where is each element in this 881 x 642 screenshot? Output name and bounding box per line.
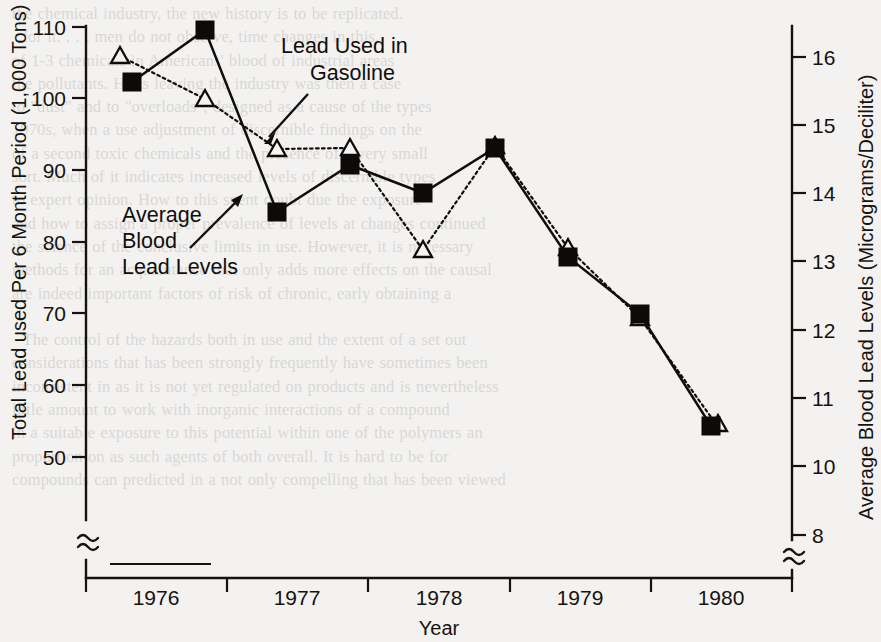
data-point-square: [123, 73, 141, 91]
annotation-blood-line2: Blood: [122, 229, 177, 253]
x-tick-label-1978: 1978: [416, 586, 463, 609]
annotation-lead-gasoline: Lead Used in Gasoline: [264, 34, 408, 144]
data-point-square: [341, 156, 359, 174]
data-point-square: [559, 248, 577, 266]
left-tick-label-100: 100: [31, 87, 66, 110]
right-axis-break-icon-2: [784, 558, 804, 564]
right-axis-break-icon: [784, 549, 804, 555]
left-tick-label-50: 50: [43, 446, 66, 469]
right-tick-label-14: 14: [812, 182, 836, 205]
annotation-gasoline-arrow: [269, 94, 308, 137]
x-tick-label-1976: 1976: [133, 586, 180, 609]
x-axis-title: Year: [419, 617, 460, 639]
annotation-gasoline-line2: Gasoline: [310, 61, 395, 85]
left-tick-label-70: 70: [43, 302, 66, 325]
left-axis-break-icon: [78, 535, 98, 541]
right-tick-label-15: 15: [812, 114, 835, 137]
right-tick-label-11: 11: [812, 387, 834, 410]
data-point-square: [631, 305, 649, 323]
left-tick-label-90: 90: [43, 159, 66, 182]
right-tick-label-8: 8: [812, 524, 824, 547]
data-point-triangle: [111, 47, 129, 63]
right-axis: 16 15 14 13 12 11 10 8 Average Blood Lea…: [784, 26, 877, 578]
series-blood-lead-line: [120, 56, 716, 424]
left-tick-label-80: 80: [43, 231, 66, 254]
data-point-triangle: [196, 90, 214, 106]
left-axis-title: Total Lead used Per 6 Month Period (1,00…: [8, 5, 30, 440]
data-point-square: [196, 21, 214, 39]
chart-svg: 110 100 90 80 70 60 50 Total Lead used P…: [0, 0, 881, 642]
right-tick-label-16: 16: [812, 46, 835, 69]
x-tick-label-1977: 1977: [274, 586, 321, 609]
annotation-gasoline-line1: Lead Used in: [281, 34, 408, 58]
x-tick-label-1979: 1979: [557, 586, 604, 609]
series-lead-gasoline-line: [132, 30, 711, 426]
left-tick-label-60: 60: [43, 374, 66, 397]
data-point-square: [268, 203, 286, 221]
bottom-axis: 1976 1977 1978 1979 1980 Year: [86, 564, 792, 639]
data-point-square: [414, 184, 432, 202]
right-tick-label-10: 10: [812, 455, 835, 478]
annotation-blood-line1: Average: [122, 203, 202, 227]
left-tick-label-110: 110: [33, 16, 66, 39]
annotation-blood-lead: Average Blood Lead Levels: [122, 194, 243, 279]
chart-figure: 110 100 90 80 70 60 50 Total Lead used P…: [0, 0, 881, 642]
left-axis-break-icon-2: [78, 544, 98, 550]
right-axis-title: Average Blood Lead Levels (Micrograms/De…: [855, 75, 877, 520]
right-tick-label-13: 13: [812, 250, 835, 273]
annotation-blood-line3: Lead Levels: [122, 255, 238, 279]
x-tick-label-1980: 1980: [698, 586, 745, 609]
series-blood-lead: [111, 47, 727, 431]
data-point-triangle: [341, 139, 359, 155]
left-axis: 110 100 90 80 70 60 50 Total Lead used P…: [8, 5, 98, 578]
right-tick-label-12: 12: [812, 319, 835, 342]
data-point-square: [486, 139, 504, 157]
series-lead-gasoline: [123, 21, 720, 435]
data-point-square: [702, 417, 720, 435]
data-point-triangle: [414, 241, 432, 257]
